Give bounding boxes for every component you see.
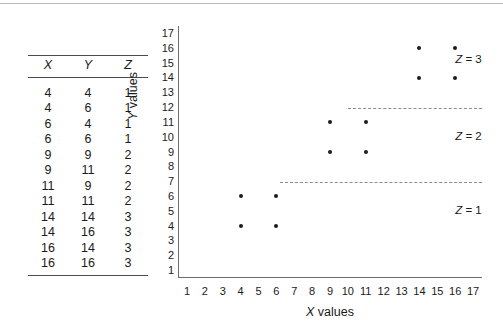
data-point — [364, 150, 368, 154]
y-axis-title-symbol: Y — [126, 112, 140, 120]
figure: X Y Z 4414616416619929112119211112141431… — [0, 0, 503, 334]
zone-label: Z = 3 — [455, 53, 482, 65]
data-point — [364, 120, 368, 124]
data-point — [274, 194, 278, 198]
data-point — [453, 46, 457, 50]
data-point — [328, 150, 332, 154]
y-tick-label: 15 — [152, 58, 174, 69]
y-tick-label: 17 — [152, 28, 174, 39]
zone-divider-line — [348, 108, 482, 109]
data-point — [417, 76, 421, 80]
data-point — [453, 76, 457, 80]
scatter-plot: Z = 3Z = 2Z = 1 123456789101112131415161… — [0, 0, 503, 334]
y-tick-label: 5 — [152, 206, 174, 217]
data-point — [328, 120, 332, 124]
y-tick-label: 9 — [152, 147, 174, 158]
x-axis-ticks: 1234567891011121314151617 — [178, 286, 482, 302]
y-tick-label: 16 — [152, 43, 174, 54]
y-axis-title: Y values — [126, 72, 140, 120]
plot-canvas: Z = 3Z = 2Z = 1 — [178, 26, 482, 278]
y-tick-label: 4 — [152, 221, 174, 232]
zone-label: Z = 1 — [455, 204, 482, 216]
y-tick-label: 10 — [152, 132, 174, 143]
data-point — [417, 46, 421, 50]
y-tick-label: 12 — [152, 102, 174, 113]
y-tick-label: 1 — [152, 265, 174, 276]
y-tick-label: 2 — [152, 250, 174, 261]
y-tick-label: 6 — [152, 191, 174, 202]
x-axis-title-rest: values — [314, 305, 354, 319]
y-tick-label: 13 — [152, 87, 174, 98]
y-tick-label: 14 — [152, 72, 174, 83]
y-axis-ticks: 1234567891011121314151617 — [152, 26, 174, 278]
y-axis-title-rest: values — [126, 72, 140, 112]
y-tick-label: 7 — [152, 176, 174, 187]
data-point — [274, 224, 278, 228]
data-point — [239, 224, 243, 228]
y-tick-label: 11 — [152, 117, 174, 128]
data-point — [239, 194, 243, 198]
x-tick-label: 17 — [462, 286, 484, 297]
x-axis-title: X values — [178, 305, 482, 319]
y-tick-label: 3 — [152, 235, 174, 246]
zone-divider-line — [280, 182, 482, 183]
y-tick-label: 8 — [152, 161, 174, 172]
zone-label: Z = 2 — [455, 130, 482, 142]
